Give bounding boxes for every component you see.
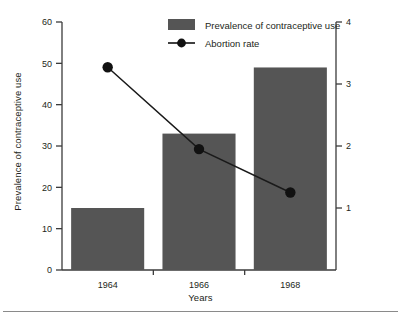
line-marker [102, 62, 112, 72]
right-axis-ticks: 1234 [336, 17, 351, 213]
left-tick-label: 10 [42, 224, 52, 234]
category-ticks [153, 270, 244, 275]
left-tick-label: 50 [42, 59, 52, 69]
right-tick-label: 4 [346, 17, 351, 27]
x-tick-label: 1966 [189, 280, 209, 290]
chart-plot-area: 0102030405060 1234 196419661968 Prevalen… [0, 0, 401, 320]
footer-rule [3, 311, 398, 312]
right-tick-label: 2 [346, 141, 351, 151]
x-axis-tick-labels: 196419661968 [98, 280, 301, 290]
left-tick-label: 0 [47, 265, 52, 275]
left-tick-label: 20 [42, 183, 52, 193]
line-marker [285, 187, 295, 197]
bar [254, 67, 327, 270]
left-tick-label: 30 [42, 141, 52, 151]
right-tick-label: 3 [346, 79, 351, 89]
x-tick-label: 1964 [98, 280, 118, 290]
chart-figure: Prevalence of contraceptive use Abortion… [0, 0, 401, 320]
legend-label-abortion: Abortion rate [205, 38, 259, 49]
right-tick-label: 1 [346, 203, 351, 213]
line-marker [194, 144, 204, 154]
left-tick-label: 40 [42, 100, 52, 110]
chart-legend: Prevalence of contraceptive use Abortion… [168, 19, 340, 49]
left-tick-label: 60 [42, 17, 52, 27]
y-axis-title-left: Prevalence of contraceptive use [12, 37, 23, 247]
legend-marker-icon [177, 39, 186, 48]
bar [71, 208, 144, 270]
left-axis-ticks: 0102030405060 [42, 17, 62, 275]
bar-series [71, 67, 327, 270]
x-axis-title: Years [0, 292, 401, 303]
x-tick-label: 1968 [280, 280, 300, 290]
legend-label-prevalence: Prevalence of contraceptive use [205, 20, 340, 31]
legend-bar-swatch [168, 19, 195, 30]
